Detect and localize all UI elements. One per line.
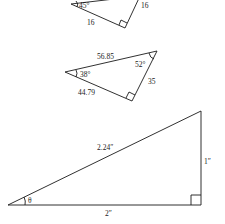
angle-label-theta: θ (28, 196, 32, 205)
side-label-opposite-bottom: 1″ (204, 157, 211, 166)
side-label-adjacent-middle: 44.79 (78, 88, 95, 97)
angle-label-38: 38° (80, 70, 91, 79)
side-label-hypotenuse-bottom: 2.24″ (97, 143, 113, 152)
angle-arc-theta (24, 197, 25, 205)
triangle-bottom: 2.24″ 1″ 2″ θ (8, 111, 211, 218)
angle-arc-38 (76, 70, 77, 77)
triangle-bottom-edges (8, 111, 201, 205)
side-label-opposite-middle: 35 (148, 77, 156, 86)
side-label-adjacent-top: 16 (87, 18, 95, 27)
right-angle-marker-bottom (191, 195, 201, 205)
side-label-hypotenuse-middle: 56.85 (97, 52, 114, 61)
side-label-opposite-top: 16 (141, 1, 149, 10)
triangles-diagram: 45° 16 16 56.85 38° 52° 35 44.79 2.24″ 1… (0, 0, 225, 224)
triangle-top: 45° 16 16 (71, 0, 149, 28)
angle-label-52: 52° (135, 60, 146, 69)
side-label-adjacent-bottom: 2″ (105, 209, 112, 218)
triangle-middle: 56.85 38° 52° 35 44.79 (65, 51, 157, 101)
angle-label-45: 45° (79, 1, 90, 10)
right-angle-marker-top (119, 20, 127, 25)
